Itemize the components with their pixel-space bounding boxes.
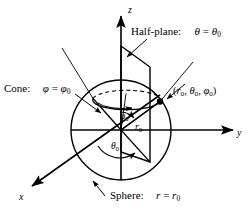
cone-label-name: Cone: (4, 82, 30, 94)
half-plane-label: Half-plane: θ = θ0 (131, 26, 221, 38)
leader-sphere (93, 181, 105, 196)
point-coordinates-label: (r0, θ0, φ0) (173, 86, 216, 98)
cone-eq-op: = (49, 82, 61, 94)
sphere-label-name: Sphere: (110, 189, 144, 201)
sphere-eq-op: = (160, 189, 172, 201)
axis-label-x: x (19, 192, 23, 202)
axis-label-z: z (128, 5, 132, 15)
axis-label-y: y (237, 128, 241, 138)
sphere-eq-sub: 0 (176, 194, 180, 203)
phi0-angle-label: φ0 (120, 112, 129, 122)
phi0-subscript: 0 (125, 115, 128, 122)
cone-eq-sub: 0 (67, 87, 71, 96)
leader-halfplane (127, 39, 147, 57)
spherical-coordinates-figure: z y x Half-plane: θ = θ0 Cone: φ = φ0 Sp… (0, 0, 249, 214)
half-plane-eq-sub: 0 (217, 30, 221, 39)
point-close-paren: ) (213, 85, 217, 96)
x-axis (32, 95, 160, 186)
r0-subscript: 0 (139, 126, 142, 133)
half-plane-label-name: Half-plane: (131, 25, 181, 37)
r0-length-label: r0 (135, 123, 142, 133)
theta0-subscript: 0 (116, 145, 119, 152)
cone-label: Cone: φ = φ0 (4, 83, 70, 95)
sphere-label: Sphere: r = r0 (110, 190, 180, 202)
half-plane-eq-op: = (200, 25, 212, 37)
theta0-angle-label: θ0 (111, 142, 119, 152)
half-plane-shape (121, 46, 150, 162)
